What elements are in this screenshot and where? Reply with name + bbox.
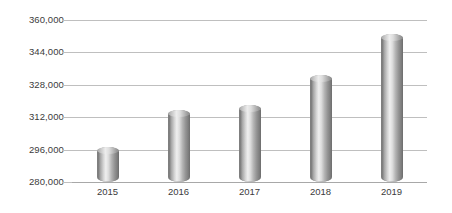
gridline (72, 85, 427, 86)
y-axis-tick-mark (62, 52, 72, 53)
y-axis-tick-label: 312,000 (29, 112, 64, 122)
x-axis-tick-labels: 20152016201720182019 (72, 184, 427, 204)
bar-2017[interactable] (239, 105, 261, 182)
x-axis-tick-label-2015: 2015 (97, 187, 118, 197)
x-axis-tick-label-2016: 2016 (168, 187, 189, 197)
bar-cap (168, 110, 190, 117)
y-axis-tick-mark (62, 85, 72, 86)
plot-area (72, 20, 427, 182)
bar-cap (381, 34, 403, 41)
bar-2016[interactable] (168, 110, 190, 182)
bar-cap (97, 147, 119, 154)
bar-2015[interactable] (97, 147, 119, 182)
y-axis-tick-label: 296,000 (29, 145, 64, 155)
gridline (72, 52, 427, 53)
gridline (72, 182, 427, 183)
y-axis-tick-label: 360,000 (29, 15, 64, 25)
x-axis-tick-label-2019: 2019 (381, 187, 402, 197)
bar-cap (310, 75, 332, 82)
y-axis-tick-mark (62, 150, 72, 151)
bar-cap (239, 105, 261, 112)
gridline (72, 20, 427, 21)
y-axis-tick-mark (62, 117, 72, 118)
x-axis-tick-label-2018: 2018 (310, 187, 331, 197)
y-axis-tick-label: 280,000 (29, 177, 64, 187)
y-axis-tick-mark (62, 20, 72, 21)
y-axis-tick-labels: 280,000296,000312,000328,000344,000360,0… (0, 20, 64, 182)
y-axis-tick-label: 344,000 (29, 48, 64, 58)
y-axis-tick-label: 328,000 (29, 80, 64, 90)
x-axis-tick-label-2017: 2017 (239, 187, 260, 197)
bar-2018[interactable] (310, 75, 332, 182)
bar-2019[interactable] (381, 34, 403, 182)
y-axis-tick-mark (62, 182, 72, 183)
bar-chart: 280,000296,000312,000328,000344,000360,0… (0, 0, 452, 213)
